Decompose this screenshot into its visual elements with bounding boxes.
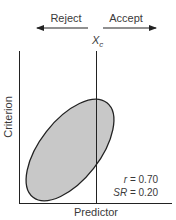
accept-label: Accept — [109, 12, 143, 24]
cutoff-label: Xc — [91, 34, 103, 49]
x-axis-label: Predictor — [74, 206, 118, 218]
y-axis-label: Criterion — [2, 96, 14, 138]
reject-label: Reject — [50, 12, 81, 24]
selection-ratio-diagram: Reject Accept Xc r = 0.70 SR = 0.20 Pred… — [0, 0, 176, 220]
r-value-label: r = 0.70 — [124, 174, 159, 185]
sr-value-label: SR = 0.20 — [113, 187, 158, 198]
